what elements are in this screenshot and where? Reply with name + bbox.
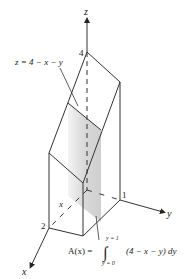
surface-equation-label: z = 4 − x − y bbox=[14, 57, 63, 67]
x-intercept-label: 2 bbox=[41, 221, 46, 231]
integrand: (4 − x − y) bbox=[126, 246, 166, 256]
cross-section-slice bbox=[68, 103, 101, 222]
base-edge-front-left bbox=[49, 228, 83, 236]
slice-position-label: x bbox=[58, 199, 63, 209]
lower-limit: y = 0 bbox=[101, 260, 115, 266]
z-intercept-label: 4 bbox=[79, 48, 84, 58]
y-axis-label: y bbox=[166, 208, 172, 219]
z-axis-label: z bbox=[83, 6, 88, 17]
y-intercept-label: 1 bbox=[122, 190, 127, 200]
differential: dy bbox=[168, 246, 177, 256]
y-axis bbox=[120, 200, 163, 212]
x-axis bbox=[31, 228, 49, 266]
solid-diagram: z y x 4 2 1 x z = 4 − x − y A(x) = ∫ y =… bbox=[0, 0, 188, 279]
area-formula: A(x) = ∫ y = 1 y = 0 (4 − x − y) dy bbox=[68, 235, 177, 266]
top-edge-back bbox=[87, 52, 120, 82]
x-axis-label: x bbox=[21, 266, 27, 277]
upper-limit: y = 1 bbox=[105, 235, 119, 241]
formula-lhs: A(x) = bbox=[68, 246, 92, 256]
